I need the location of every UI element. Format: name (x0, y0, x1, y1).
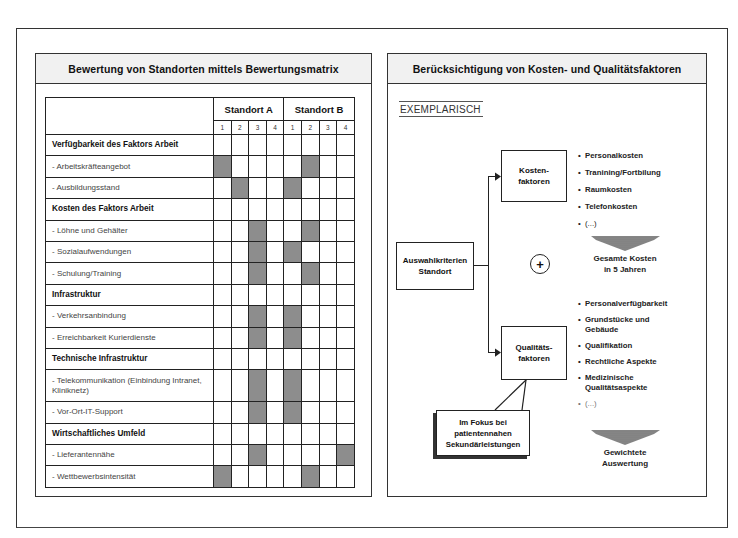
rating-cell-b-1 (284, 284, 302, 305)
rating-cell-b-3 (319, 263, 337, 284)
rating-cell-b-2 (301, 423, 319, 444)
rating-cell-b-3 (319, 156, 337, 177)
rating-cell-a-4 (266, 423, 284, 444)
rating-cell-b-4 (337, 327, 355, 348)
rating-cell-a-3 (249, 466, 267, 487)
quality-result-line2: Auswertung (602, 459, 648, 468)
rating-cell-a-2 (231, 445, 249, 466)
callout-line1: Im Fokus bei (459, 418, 507, 427)
rating-cell-a-3 (249, 199, 267, 220)
rating-cell-b-1 (284, 466, 302, 487)
scale-a-3: 3 (249, 121, 267, 135)
rating-cell-a-3 (249, 284, 267, 305)
rating-cell-a-4 (266, 327, 284, 348)
selection-criteria-line1: Auswahlkriterien (403, 256, 467, 265)
rating-cell-a-4 (266, 284, 284, 305)
rating-cell-a-1 (214, 348, 232, 369)
rating-cell-a-4 (266, 177, 284, 198)
criterion-label: - Schulung/Training (46, 263, 214, 284)
rating-cell-a-3 (249, 402, 267, 423)
criterion-label: - Erreichbarkeit Kurierdienste (46, 327, 214, 348)
scale-b-1: 1 (284, 121, 302, 135)
cost-result-line1: Gesamte Kosten (593, 254, 656, 263)
rating-cell-a-2 (231, 177, 249, 198)
callout-line3: Sekundärleistungen (446, 440, 521, 449)
rating-cell-b-2 (301, 263, 319, 284)
scale-a-1: 1 (214, 121, 232, 135)
scale-a-2: 2 (231, 121, 249, 135)
criterion-label: - Arbeitskräfteangebot (46, 156, 214, 177)
rating-cell-a-3 (249, 348, 267, 369)
rating-cell-b-4 (337, 284, 355, 305)
rating-cell-b-4 (337, 135, 355, 156)
rating-cell-a-2 (231, 306, 249, 327)
rating-cell-a-1 (214, 306, 232, 327)
rating-cell-b-2 (301, 199, 319, 220)
rating-cell-b-2 (301, 348, 319, 369)
rating-cell-a-3 (249, 263, 267, 284)
rating-cell-a-3 (249, 370, 267, 402)
rating-cell-a-4 (266, 199, 284, 220)
rating-cell-b-2 (301, 241, 319, 262)
matrix-panel-title: Bewertung von Standorten mittels Bewertu… (36, 54, 371, 84)
rating-cell-a-1 (214, 402, 232, 423)
rating-cell-a-1 (214, 284, 232, 305)
criterion-label: Kosten des Faktors Arbeit (46, 199, 214, 220)
rating-cell-a-2 (231, 402, 249, 423)
connector-to-cost (488, 176, 496, 177)
rating-cell-a-3 (249, 156, 267, 177)
rating-cell-b-4 (337, 156, 355, 177)
connector-vertical (488, 176, 489, 353)
rating-cell-a-1 (214, 156, 232, 177)
quality-items-list: Personalverfügbarkeit Grundstücke und Ge… (578, 299, 667, 415)
matrix-category-row: Wirtschaftliches Umfeld (46, 423, 355, 444)
connector-root (474, 265, 488, 266)
rating-cell-b-2 (301, 220, 319, 241)
rating-cell-b-2 (301, 156, 319, 177)
column-group-standort-a: Standort A (214, 98, 284, 121)
rating-cell-b-3 (319, 284, 337, 305)
criterion-label: Infrastruktur (46, 284, 214, 305)
matrix-criterion-row: - Vor-Ort-IT-Support (46, 402, 355, 423)
rating-cell-a-4 (266, 156, 284, 177)
matrix-criterion-row: - Löhne und Gehälter (46, 220, 355, 241)
quality-factors-box: Qualitäts-faktoren (501, 326, 567, 380)
rating-cell-a-1 (214, 220, 232, 241)
cost-factors-line1: Kosten- (519, 166, 549, 175)
rating-cell-b-1 (284, 199, 302, 220)
rating-cell-a-3 (249, 220, 267, 241)
rating-cell-b-3 (319, 220, 337, 241)
rating-cell-b-3 (319, 348, 337, 369)
rating-cell-b-2 (301, 284, 319, 305)
rating-cell-b-2 (301, 135, 319, 156)
matrix-criterion-row: - Sozialaufwendungen (46, 241, 355, 262)
rating-cell-b-3 (319, 445, 337, 466)
matrix-category-row: Kosten des Faktors Arbeit (46, 199, 355, 220)
rating-cell-a-1 (214, 327, 232, 348)
rating-cell-a-1 (214, 177, 232, 198)
selection-criteria-line2: Standort (419, 267, 452, 276)
rating-cell-a-3 (249, 135, 267, 156)
rating-cell-b-1 (284, 306, 302, 327)
rating-cell-a-3 (249, 241, 267, 262)
rating-cell-a-1 (214, 445, 232, 466)
rating-cell-a-4 (266, 466, 284, 487)
rating-cell-a-3 (249, 445, 267, 466)
criterion-label: Technische Infrastruktur (46, 348, 214, 369)
rating-cell-b-2 (301, 402, 319, 423)
rating-cell-a-2 (231, 327, 249, 348)
scale-a-4: 4 (266, 121, 284, 135)
rating-cell-a-4 (266, 241, 284, 262)
quality-factors-line1: Qualitäts- (516, 343, 553, 352)
connector-to-quality (488, 352, 496, 353)
quality-result-label: Gewichtete Auswertung (580, 447, 670, 469)
scale-b-4: 4 (337, 121, 355, 135)
rating-cell-a-4 (266, 306, 284, 327)
rating-cell-b-1 (284, 348, 302, 369)
focus-callout: Im Fokus bei patientennahen Sekundärleis… (436, 410, 530, 456)
matrix-criterion-row: - Ausbildungsstand (46, 177, 355, 198)
rating-cell-a-3 (249, 306, 267, 327)
rating-cell-a-4 (266, 220, 284, 241)
criterion-label: - Vor-Ort-IT-Support (46, 402, 214, 423)
rating-cell-b-4 (337, 348, 355, 369)
